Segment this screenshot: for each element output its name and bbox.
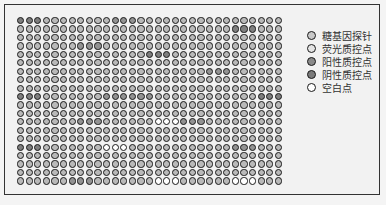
spot-probe [240, 93, 247, 100]
spot-probe [155, 25, 162, 32]
spot-probe [215, 144, 222, 151]
spot-probe [155, 127, 162, 134]
spot-probe [17, 135, 24, 142]
spot-probe [112, 85, 119, 92]
spot-probe [137, 118, 144, 125]
spot-probe [129, 42, 136, 49]
spot-probe [94, 17, 101, 24]
spot-probe [223, 127, 230, 134]
spot-probe [223, 25, 230, 32]
spot-probe [146, 101, 153, 108]
spot-pos [69, 177, 76, 184]
spot-probe [266, 34, 273, 41]
spot-blank [240, 177, 247, 184]
spot-probe [240, 34, 247, 41]
spot-probe [60, 118, 67, 125]
spot-probe [266, 127, 273, 134]
spot-probe [249, 76, 256, 83]
spot-probe [163, 85, 170, 92]
spot-pos [112, 93, 119, 100]
spot-probe [43, 118, 50, 125]
spot-probe [232, 17, 239, 24]
spot-probe [163, 68, 170, 75]
spot-probe [60, 127, 67, 134]
spot-probe [112, 160, 119, 167]
spot-probe [180, 42, 187, 49]
spot-probe [51, 135, 58, 142]
spot-pos [94, 118, 101, 125]
spot-probe [155, 76, 162, 83]
spot-probe [112, 76, 119, 83]
spot-probe [112, 152, 119, 159]
spot-blank [103, 144, 110, 151]
spot-probe [258, 51, 265, 58]
spot-probe [155, 152, 162, 159]
spot-probe [180, 110, 187, 117]
spot-probe [69, 76, 76, 83]
spot-neg [26, 93, 33, 100]
spot-probe [17, 169, 24, 176]
spot-probe [258, 42, 265, 49]
spot-probe [223, 17, 230, 24]
spot-probe [43, 169, 50, 176]
spot-probe [26, 152, 33, 159]
spot-probe [137, 110, 144, 117]
spot-probe [137, 42, 144, 49]
spot-probe [172, 152, 179, 159]
spot-probe [69, 59, 76, 66]
spot-probe [77, 110, 84, 117]
spot-probe [112, 34, 119, 41]
spot-probe [240, 135, 247, 142]
spot-probe [94, 51, 101, 58]
spot-probe [26, 177, 33, 184]
spot-probe [120, 101, 127, 108]
spot-probe [258, 110, 265, 117]
spot-probe [51, 177, 58, 184]
spot-probe [155, 34, 162, 41]
spot-probe [155, 144, 162, 151]
spot-probe [232, 127, 239, 134]
spot-pos [77, 177, 84, 184]
spot-probe [120, 51, 127, 58]
spot-probe [155, 93, 162, 100]
spot-probe [249, 17, 256, 24]
spot-probe [17, 25, 24, 32]
spot-probe [223, 160, 230, 167]
spot-probe [258, 101, 265, 108]
spot-probe [103, 25, 110, 32]
spot-probe [249, 42, 256, 49]
spot-probe [129, 135, 136, 142]
spot-probe [120, 25, 127, 32]
spot-probe [180, 85, 187, 92]
spot-probe [180, 93, 187, 100]
spot-probe [197, 110, 204, 117]
spot-probe [120, 169, 127, 176]
spot-probe [258, 144, 265, 151]
spot-probe [232, 59, 239, 66]
spot-probe [103, 101, 110, 108]
spot-probe [266, 118, 273, 125]
spot-probe [249, 68, 256, 75]
spot-probe [26, 169, 33, 176]
spot-probe [146, 85, 153, 92]
spot-blank [172, 177, 179, 184]
spot-probe [103, 51, 110, 58]
spot-probe [189, 93, 196, 100]
spot-probe [180, 177, 187, 184]
spot-probe [34, 152, 41, 159]
spot-probe [60, 68, 67, 75]
spot-probe [34, 76, 41, 83]
spot-probe [223, 59, 230, 66]
spot-pos [249, 144, 256, 151]
spot-probe [60, 135, 67, 142]
spot-pos [129, 93, 136, 100]
spot-probe [69, 17, 76, 24]
spot-probe [232, 76, 239, 83]
spot-probe [223, 101, 230, 108]
spot-probe [258, 177, 265, 184]
spot-probe [275, 68, 282, 75]
spot-probe [137, 51, 144, 58]
spot-probe [69, 51, 76, 58]
spot-probe [172, 144, 179, 151]
spot-probe [137, 169, 144, 176]
